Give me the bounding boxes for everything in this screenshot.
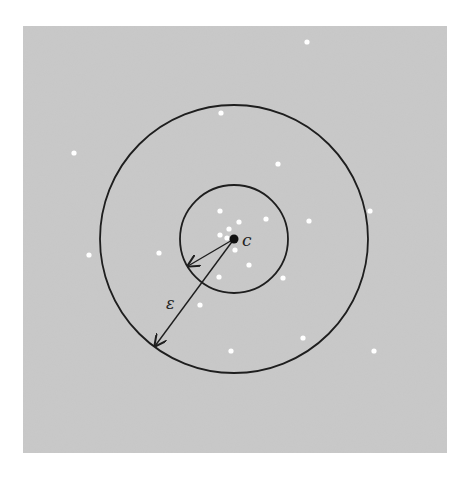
data-point xyxy=(216,274,221,279)
data-point xyxy=(246,262,251,267)
data-point xyxy=(71,150,76,155)
data-point xyxy=(228,348,233,353)
data-point xyxy=(263,216,268,221)
center-label: c xyxy=(242,230,252,250)
data-point xyxy=(217,208,222,213)
data-point xyxy=(156,250,161,255)
data-point xyxy=(218,110,223,115)
data-point xyxy=(86,252,91,257)
data-point xyxy=(367,208,372,213)
epsilon-label: ε xyxy=(166,294,175,313)
data-point xyxy=(300,335,305,340)
center-point xyxy=(230,235,239,244)
data-point xyxy=(371,348,376,353)
data-point xyxy=(236,219,241,224)
data-point xyxy=(224,235,229,240)
data-point xyxy=(226,226,231,231)
epsilon-neighborhood-diagram: c ε xyxy=(0,0,471,480)
data-point xyxy=(306,218,311,223)
data-point xyxy=(275,161,280,166)
data-point xyxy=(232,247,237,252)
data-point xyxy=(217,232,222,237)
data-point xyxy=(304,39,309,44)
data-point xyxy=(197,302,202,307)
data-point xyxy=(280,275,285,280)
